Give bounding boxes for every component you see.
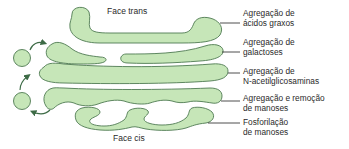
label-line: Agregação de: [243, 37, 295, 47]
label-line: Agregação e remoção: [243, 93, 325, 103]
arrow-cisterna-4-to-vesicle: [33, 110, 50, 114]
label-line: galactoses: [243, 47, 295, 57]
label-line: de manoses: [243, 127, 288, 137]
label-galactoses: Agregação de galactoses: [243, 37, 295, 57]
arrow-vesicle-to-cisterna-2: [30, 42, 44, 50]
label-n-acetylglucosamines: Agregação de N-acetilglicosaminas: [243, 66, 319, 86]
face-cis-label: Face cis: [113, 133, 145, 143]
label-line: ácidos graxos: [243, 18, 295, 28]
label-line: Fosforilação: [243, 117, 288, 127]
cisterna-3: [39, 63, 228, 83]
cisterna-4: [44, 88, 222, 110]
face-trans-label: Face trans: [107, 6, 147, 16]
vesicle-upper: [14, 50, 31, 67]
cisterna-2-left: [46, 42, 106, 64]
label-mannose-add-remove: Agregação e remoção de manoses: [243, 93, 325, 113]
label-line: N-acetilglicosaminas: [243, 76, 319, 86]
cisterna-2-right: [121, 45, 223, 64]
label-line: Agregação de: [243, 8, 295, 18]
label-line: de manoses: [243, 103, 325, 113]
label-mannose-phosphorylation: Fosforilação de manoses: [243, 117, 288, 137]
label-fatty-acids: Agregação de ácidos graxos: [243, 8, 295, 28]
vesicle-lower: [14, 93, 31, 110]
arrow-vesicle-to-cisterna-3: [20, 76, 28, 90]
label-line: Agregação de: [243, 66, 319, 76]
cisterna-cis: [75, 107, 213, 130]
